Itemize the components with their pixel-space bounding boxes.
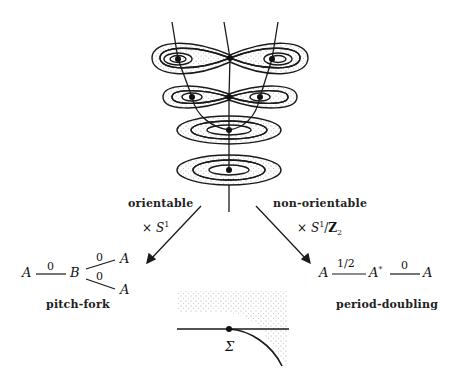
non-orientable-label: non-orientable — [273, 197, 367, 210]
pitchfork-edge-label-3: 0 — [96, 270, 103, 283]
circle-superscript: 1 — [164, 220, 169, 229]
branch-arrows — [147, 206, 310, 263]
period-doubling-node-a-right: A — [423, 265, 432, 280]
period-doubling-edge-label-2: 0 — [401, 259, 408, 272]
pitchfork-edge-label-1: 0 — [47, 260, 54, 273]
pitchfork-node-a-left: A — [22, 265, 31, 280]
pitchfork-caption: pitch-fork — [46, 298, 110, 311]
group-symbol: Z — [328, 221, 337, 235]
bottom-inset-sigma — [177, 291, 289, 366]
orientable-operation: × S1 — [142, 220, 169, 235]
times-symbol: × — [142, 221, 152, 235]
non-orientable-operation: × S1/Z2 — [297, 220, 342, 237]
sigma-label: Σ — [225, 339, 234, 354]
circle-symbol: S — [311, 221, 319, 235]
bifurcation-figure — [0, 0, 455, 389]
times-symbol: × — [297, 221, 307, 235]
period-doubling-node-a-star: A* — [369, 265, 382, 280]
period-doubling-node-a-left: A — [319, 265, 328, 280]
pitchfork-node-b: B — [70, 265, 80, 280]
circle-symbol: S — [156, 221, 164, 235]
period-doubling-edge-label-1: 1/2 — [337, 257, 355, 270]
pitchfork-edge-label-2: 0 — [96, 251, 103, 264]
pitchfork-node-a-lower: A — [120, 282, 129, 297]
pitchfork-node-a-upper: A — [120, 251, 129, 266]
orientable-label: orientable — [128, 197, 193, 210]
group-subscript: 2 — [337, 228, 342, 237]
period-doubling-caption: period-doubling — [336, 298, 438, 311]
